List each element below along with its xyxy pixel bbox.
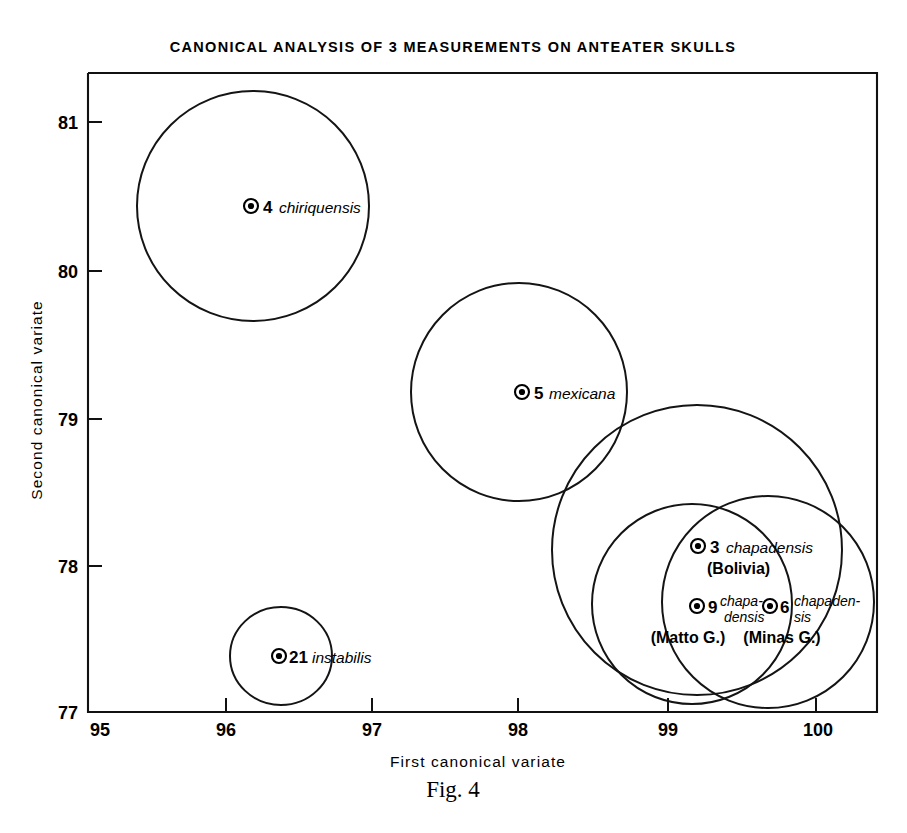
point-number-mexicana: 5 [534, 384, 543, 403]
point-number-instabilis: 21 [289, 648, 308, 667]
marker-core-chapadensis-minas [767, 603, 773, 609]
x-tick-label-97: 97 [362, 720, 382, 740]
y-axis-ticks [88, 122, 102, 566]
point-species-line2-chapadensis-minas: sis [794, 609, 811, 625]
chart-title: CANONICAL ANALYSIS OF 3 MEASUREMENTS ON … [170, 39, 736, 55]
y-axis-title: Second canonical variate [28, 300, 45, 500]
y-tick-label-78: 78 [58, 557, 78, 577]
x-tick-label-98: 98 [508, 720, 528, 740]
point-species-line1-chapadensis-minas: chapaden- [794, 593, 861, 609]
figure-caption: Fig. 4 [426, 777, 480, 802]
y-tick-label-81: 81 [58, 113, 78, 133]
y-tick-label-80: 80 [58, 262, 78, 282]
point-species-mexicana: mexicana [549, 385, 616, 402]
data-point-chapadensis-bolivia[interactable]: 3 chapadensis (Bolivia) [691, 538, 813, 577]
point-number-chiriquensis: 4 [263, 198, 273, 217]
y-tick-label-79: 79 [58, 410, 78, 430]
point-number-chapadensis-minas: 6 [780, 598, 789, 617]
y-tick-label-77: 77 [58, 703, 78, 723]
marker-core-chapadensis-matto [694, 603, 700, 609]
point-species-chiriquensis: chiriquensis [279, 199, 361, 216]
point-species-line1-chapadensis-matto: chapa- [720, 593, 763, 609]
point-species-instabilis: instabilis [312, 649, 372, 666]
point-number-chapadensis-matto: 9 [708, 598, 717, 617]
x-axis-title: First canonical variate [390, 753, 566, 770]
data-point-mexicana[interactable]: 5 mexicana [515, 384, 616, 403]
x-tick-label-95: 95 [90, 720, 110, 740]
x-tick-label-96: 96 [216, 720, 236, 740]
marker-core-chapadensis-bolivia [695, 543, 701, 549]
point-number-chapadensis-bolivia: 3 [710, 538, 719, 557]
marker-core-chiriquensis [248, 203, 254, 209]
point-locality-chapadensis-matto: (Matto G.) [651, 629, 726, 646]
point-species-line2-chapadensis-matto: densis [724, 609, 764, 625]
figure-container: CANONICAL ANALYSIS OF 3 MEASUREMENTS ON … [0, 0, 907, 833]
x-tick-label-100: 100 [803, 720, 833, 740]
point-species-chapadensis-bolivia: chapadensis [726, 539, 813, 556]
marker-core-mexicana [519, 389, 525, 395]
point-locality-chapadensis-bolivia: (Bolivia) [707, 560, 770, 577]
data-point-chiriquensis[interactable]: 4 chiriquensis [244, 198, 361, 217]
marker-core-instabilis [276, 653, 282, 659]
anteater-skull-canonical-analysis-plot: CANONICAL ANALYSIS OF 3 MEASUREMENTS ON … [0, 0, 907, 833]
data-point-instabilis[interactable]: 21 instabilis [272, 648, 372, 667]
point-locality-chapadensis-minas: (Minas G.) [743, 629, 820, 646]
x-tick-label-99: 99 [658, 720, 678, 740]
